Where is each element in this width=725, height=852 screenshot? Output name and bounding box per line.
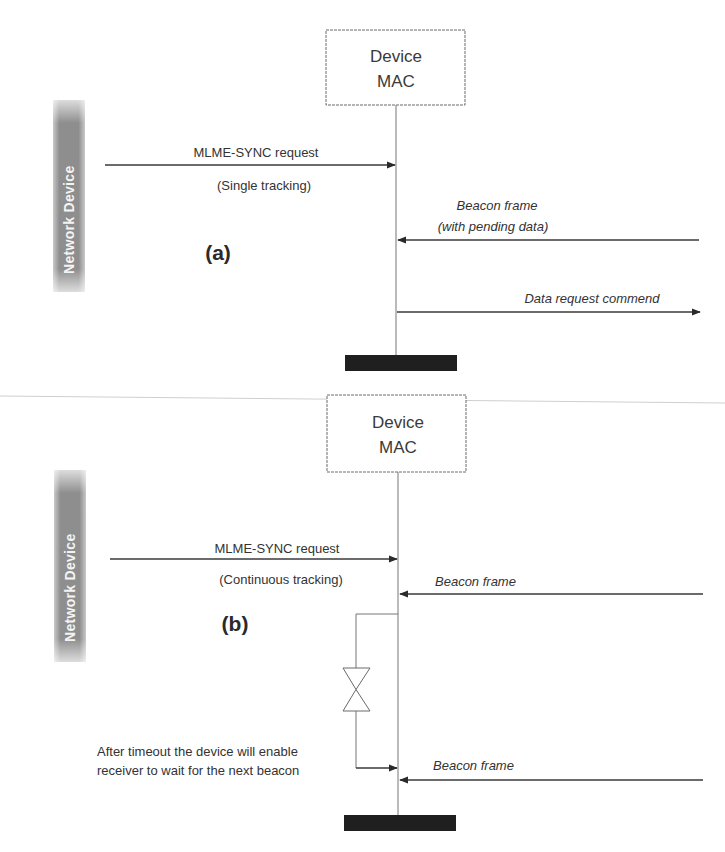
beacon-frame-label: Beacon frame [435,574,516,589]
network-device-actor: Network Device [34,467,88,662]
network-device-actor: Network Device [53,100,85,292]
request-label: MLME-SYNC request [194,145,319,160]
request-label: MLME-SYNC request [215,541,340,556]
beacon-frame-arrow-2: Beacon frame [400,758,703,780]
data-request-command-arrow: Data request commend [397,291,700,312]
beacon-frame-label: Beacon frame [433,758,514,773]
mlme-sync-request-arrow: MLME-SYNC request (Continuous tracking) [110,541,397,587]
request-sublabel: (Single tracking) [217,178,311,193]
sync-sequence-diagram: Network Device Device MAC MLME-SYNC requ… [0,0,725,852]
timeout-note-line2: receiver to wait for the next beacon [97,763,299,778]
panel-b: Network Device Device MAC MLME-SYNC requ… [34,395,703,831]
beacon-frame-label: Beacon frame [457,198,538,213]
device-mac-line2: MAC [379,438,417,457]
network-device-label: Network Device [62,534,78,642]
panel-a: Network Device Device MAC MLME-SYNC requ… [53,30,700,371]
request-sublabel: (Continuous tracking) [219,572,343,587]
timeout-note-line1: After timeout the device will enable [97,744,298,759]
device-mac-box: Device MAC [327,395,466,472]
panel-letter-b: (b) [222,612,249,635]
beacon-frame-arrow-1: Beacon frame [400,574,703,594]
lifeline-terminator-a [345,355,457,371]
lifeline-terminator-b [344,815,456,831]
device-mac-line1: Device [372,413,424,432]
beacon-frame-pending-arrow: Beacon frame (with pending data) [398,198,699,240]
device-mac-line1: Device [370,47,422,66]
device-mac-line2: MAC [377,72,415,91]
data-request-label: Data request commend [524,291,660,306]
mlme-sync-request-arrow: MLME-SYNC request (Single tracking) [105,145,395,193]
beacon-pending-label: (with pending data) [438,219,549,234]
panel-letter-a: (a) [205,241,231,264]
hourglass-timer-icon [343,668,370,711]
timeout-loop: After timeout the device will enable rec… [97,614,398,778]
device-mac-box: Device MAC [326,30,465,105]
network-device-label: Network Device [61,166,77,274]
